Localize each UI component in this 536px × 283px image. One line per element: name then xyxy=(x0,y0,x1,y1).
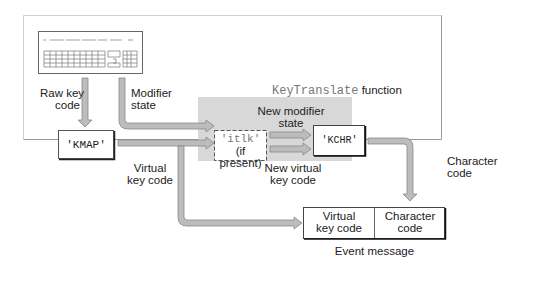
label-new-modifier-state: New modifier state xyxy=(266,105,316,129)
event-cell-character-code: Character code xyxy=(375,210,445,234)
label-new-virtual-key-code: New virtual key code xyxy=(268,162,318,186)
event-message-caption: Event message xyxy=(304,245,445,257)
label-virtual-key-code: Virtual key code xyxy=(122,162,178,186)
kmap-resource: 'KMAP' xyxy=(58,139,114,151)
keyboard-icon xyxy=(39,32,143,74)
label-character-code: Character code xyxy=(447,155,498,179)
event-cell-virtual-key-code: Virtual key code xyxy=(304,210,374,234)
label-raw-key-code: Raw key code xyxy=(40,87,84,111)
kchr-resource: 'KCHR' xyxy=(314,135,365,147)
function-title: KeyTranslate function xyxy=(272,84,402,97)
label-modifier-state: Modifier state xyxy=(131,87,172,111)
